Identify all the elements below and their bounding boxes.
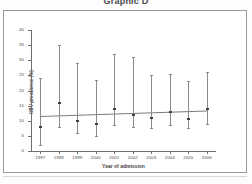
data-point (132, 114, 135, 116)
y-axis-tick-label: 30 (19, 58, 24, 62)
data-point (206, 108, 209, 110)
y-axis-tick: 30 (28, 60, 31, 61)
x-axis-tick (151, 151, 152, 154)
data-point (95, 123, 98, 125)
y-axis-tick: 40 (28, 30, 31, 31)
error-bar-cap (206, 124, 209, 125)
error-bar (207, 72, 208, 123)
x-axis-tick (133, 151, 134, 154)
figure-root: Graphic D HBV prevalence (%) 05101520253… (0, 0, 252, 184)
plot-area: 0510152025303540199719981999200020012002… (31, 30, 216, 151)
y-axis-tick-label: 10 (19, 119, 24, 123)
error-bar-cap (169, 74, 172, 75)
x-axis-tick-label: 1997 (35, 156, 45, 160)
error-bar-cap (76, 63, 79, 64)
x-axis-tick-label: 2006 (202, 156, 212, 160)
data-point (113, 108, 116, 110)
error-bar-cap (95, 136, 98, 137)
error-bar (151, 75, 152, 128)
error-bar (188, 81, 189, 128)
error-bar (133, 57, 134, 127)
x-axis-tick-label: 2003 (146, 156, 156, 160)
x-axis-tick-label: 1999 (72, 156, 82, 160)
error-bar-cap (113, 54, 116, 55)
data-point (76, 120, 79, 122)
error-bar-cap (206, 72, 209, 73)
y-axis-tick-label: 25 (19, 73, 24, 77)
x-axis-tick (96, 151, 97, 154)
error-bar-cap (39, 78, 42, 79)
y-axis-tick-label: 35 (19, 43, 24, 47)
x-axis-tick-label: 2002 (128, 156, 138, 160)
y-axis-tick: 5 (28, 136, 31, 137)
error-bar-cap (150, 75, 153, 76)
trend-line (40, 110, 207, 116)
error-bar-cap (113, 125, 116, 126)
error-bar-cap (187, 128, 190, 129)
y-axis-tick-label: 20 (19, 89, 24, 93)
y-axis-tick: 20 (28, 91, 31, 92)
data-point (39, 126, 42, 128)
data-point (187, 118, 190, 120)
error-bar (170, 74, 171, 125)
data-point (169, 111, 172, 113)
error-bar (40, 78, 41, 145)
data-point (150, 117, 153, 119)
y-axis-tick-label: 0 (22, 149, 24, 153)
data-point (58, 102, 61, 104)
error-bar-cap (58, 127, 61, 128)
error-bar (77, 63, 78, 133)
x-axis-tick-label: 1998 (54, 156, 64, 160)
chart-title: Graphic D (0, 0, 252, 6)
x-axis-tick (207, 151, 208, 154)
y-axis-tick: 0 (28, 151, 31, 152)
chart-title-strip: Graphic D (0, 0, 252, 9)
y-axis-tick-label: 5 (22, 134, 24, 138)
x-axis-tick-label: 2000 (91, 156, 101, 160)
error-bar-cap (150, 128, 153, 129)
x-axis-tick (188, 151, 189, 154)
x-axis-tick-label: 2004 (165, 156, 175, 160)
x-axis-tick (170, 151, 171, 154)
panel-bottom-rule (3, 176, 247, 177)
error-bar-cap (76, 133, 79, 134)
error-bar (59, 45, 60, 127)
y-axis-tick: 25 (28, 75, 31, 76)
x-axis-tick (114, 151, 115, 154)
y-axis-tick: 10 (28, 121, 31, 122)
error-bar-cap (132, 127, 135, 128)
error-bar-cap (169, 125, 172, 126)
x-axis-tick (40, 151, 41, 154)
x-axis-tick (59, 151, 60, 154)
x-axis-tick-label: 2001 (109, 156, 119, 160)
error-bar-cap (132, 57, 135, 58)
x-axis-title: Year of admission (31, 163, 216, 169)
y-axis-tick: 35 (28, 45, 31, 46)
error-bar-cap (58, 45, 61, 46)
error-bar (96, 80, 97, 136)
error-bar-cap (187, 81, 190, 82)
error-bar (114, 54, 115, 125)
x-axis-tick (77, 151, 78, 154)
error-bar-cap (39, 145, 42, 146)
y-axis-tick-label: 15 (19, 104, 24, 108)
error-bar-cap (95, 80, 98, 81)
x-axis-tick-label: 2005 (183, 156, 193, 160)
y-axis-tick: 15 (28, 106, 31, 107)
y-axis-tick-label: 40 (19, 28, 24, 32)
